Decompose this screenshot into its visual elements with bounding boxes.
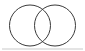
venn-diagram-figure [0,0,85,51]
venn-diagram-canvas [0,0,85,51]
figure-background [0,0,85,51]
